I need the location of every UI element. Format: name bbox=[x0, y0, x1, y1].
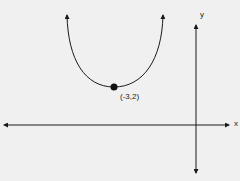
vertex-label: (-3,2) bbox=[120, 92, 139, 101]
parabola-curve bbox=[67, 15, 163, 87]
y-axis-label: y bbox=[200, 10, 204, 19]
coordinate-plane bbox=[0, 0, 240, 181]
vertex-point bbox=[111, 84, 118, 91]
graph-canvas: (-3,2) x y bbox=[0, 0, 240, 181]
x-axis-label: x bbox=[234, 119, 238, 128]
